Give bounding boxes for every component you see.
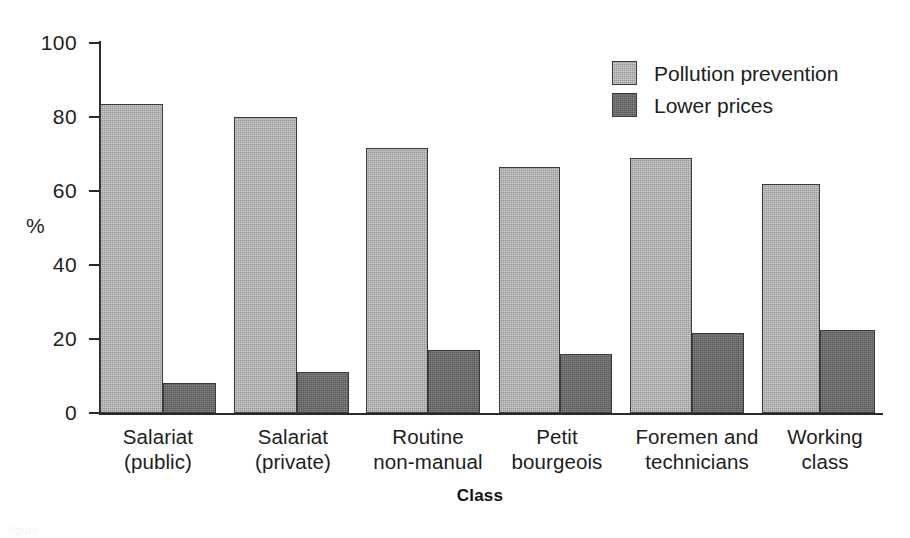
bar-light-6 [762,184,820,413]
legend-label: Pollution prevention [654,63,838,84]
y-axis-tick-label: 60 [19,180,77,201]
y-axis-tick [89,338,99,340]
bar-light-4 [499,167,560,413]
x-axis-category-label: Routine non-manual [348,424,508,474]
y-axis-tick [89,42,99,44]
x-axis-title-text: Class [457,486,503,505]
x-axis-line [99,413,883,415]
bar-dark-2 [297,372,349,413]
y-axis-tick-label: 40 [19,254,77,275]
bar-light-2 [234,117,297,413]
legend-item: Pollution prevention [612,57,838,89]
bar-dark-3 [428,350,480,413]
y-axis-tick [89,264,99,266]
y-axis-tick [89,116,99,118]
y-axis-tick-label: 100 [19,32,77,53]
scan-artifact-footer: figure [8,524,528,536]
chart-legend: Pollution preventionLower prices [612,57,838,121]
y-axis-tick [89,190,99,192]
y-axis-tick-label: 80 [19,106,77,127]
legend-item: Lower prices [612,89,838,121]
y-axis-title: % [26,215,45,236]
bar-dark-5 [692,333,744,413]
legend-swatch-dark [612,93,637,117]
legend-swatch-light [612,61,637,85]
bar-light-5 [630,158,692,413]
bar-dark-1 [163,383,216,413]
x-axis-category-label: Petit bourgeois [492,424,622,474]
y-axis-ticks: 020406080100 [0,0,99,538]
x-axis-title: Class [0,486,910,506]
bar-dark-4 [560,354,612,413]
bar-light-1 [100,104,163,413]
legend-label: Lower prices [654,95,773,116]
x-axis-category-label: Working class [760,424,890,474]
bar-chart-figure: 020406080100 % Salariat (public)Salariat… [0,0,910,538]
x-axis-category-label: Salariat (private) [231,424,355,474]
bar-light-3 [366,148,428,413]
y-axis-tick-label: 20 [19,328,77,349]
x-axis-category-label: Salariat (public) [96,424,220,474]
y-axis-tick [89,412,99,414]
bar-dark-6 [820,330,875,413]
y-axis-tick-label: 0 [19,402,77,423]
x-axis-category-label: Foremen and technicians [612,424,782,474]
